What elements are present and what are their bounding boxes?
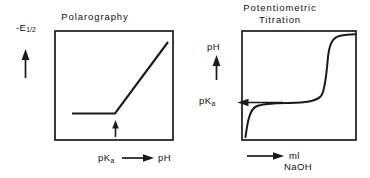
- y-axis-direction-arrow: [22, 49, 30, 78]
- titration-plot: [185, 0, 370, 178]
- polarography-data-curve: [72, 42, 168, 114]
- x-axis-direction-arrow: [122, 154, 154, 162]
- figure-root: Polarography -E1/2 pKa pH: [0, 0, 370, 178]
- panel-titration: Potentiometric Titration pH pKa ml NaOH: [185, 0, 370, 178]
- polarography-plot: [0, 0, 185, 178]
- panel-polarography: Polarography -E1/2 pKa pH: [0, 0, 185, 178]
- titration-axis-box: [242, 31, 356, 140]
- x-axis-direction-arrow: [247, 152, 284, 160]
- polarography-axis-box: [55, 31, 173, 140]
- y-axis-direction-arrow: [213, 55, 221, 80]
- pka-tick-arrow: [112, 120, 119, 137]
- titration-data-curve: [246, 34, 356, 137]
